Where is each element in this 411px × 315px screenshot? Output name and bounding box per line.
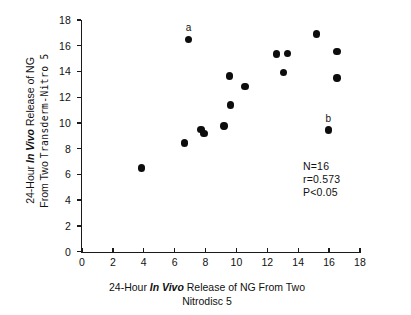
y-axis-title: 24-Hour In Vivo Release of NG From Two T… bbox=[23, 11, 52, 251]
data-point bbox=[181, 139, 188, 146]
y-tick-mark bbox=[77, 71, 81, 72]
x-tick-label: 18 bbox=[354, 256, 366, 268]
x-tick-mark bbox=[267, 248, 268, 252]
x-tick-mark bbox=[328, 248, 329, 252]
x-tick-label: 12 bbox=[261, 256, 273, 268]
y-tick-mark bbox=[77, 45, 81, 46]
x-tick-mark bbox=[359, 248, 360, 252]
y-title-emphasis: In Vivo bbox=[24, 129, 36, 163]
scatter-plot-figure: 024681012141618 024681012141618 ab N=16 … bbox=[0, 0, 411, 315]
y-title-post: Release of NG bbox=[24, 57, 36, 129]
data-point bbox=[313, 30, 320, 37]
x-axis-title-line1: 24-Hour In Vivo Release of NG From Two bbox=[62, 281, 352, 295]
y-tick-mark bbox=[77, 148, 81, 149]
data-point-label: b bbox=[326, 113, 332, 124]
y-axis-line bbox=[81, 20, 82, 253]
data-point-label: a bbox=[186, 22, 192, 33]
x-tick-mark bbox=[205, 248, 206, 252]
statistics-annotation: N=16 r=0.573 P<0.05 bbox=[303, 160, 340, 200]
data-point bbox=[226, 72, 233, 79]
y-title2-pre: From Two bbox=[38, 158, 50, 207]
stat-pvalue: P<0.05 bbox=[303, 186, 340, 199]
x-tick-label: 4 bbox=[141, 256, 147, 268]
y-tick-mark bbox=[77, 19, 81, 20]
data-point bbox=[284, 50, 291, 57]
data-point bbox=[200, 130, 207, 137]
y-tick-mark bbox=[77, 199, 81, 200]
x-title-emphasis: In Vivo bbox=[150, 281, 184, 293]
data-point bbox=[220, 122, 227, 129]
data-point bbox=[325, 126, 332, 133]
x-tick-label: 0 bbox=[79, 256, 85, 268]
x-tick-mark bbox=[112, 248, 113, 252]
y-tick-mark bbox=[77, 225, 81, 226]
x-axis-title-line2: Nitrodisc 5 bbox=[62, 295, 352, 309]
x-tick-mark bbox=[174, 248, 175, 252]
x-tick-label: 14 bbox=[292, 256, 304, 268]
x-tick-label: 8 bbox=[203, 256, 209, 268]
y-title2-mono: Transderm-Nitro 5 bbox=[39, 53, 50, 158]
x-tick-mark bbox=[236, 248, 237, 252]
y-title-pre: 24-Hour bbox=[24, 163, 36, 204]
data-point bbox=[273, 50, 280, 57]
x-tick-label: 6 bbox=[172, 256, 178, 268]
data-point bbox=[333, 48, 340, 55]
x-tick-mark bbox=[298, 248, 299, 252]
data-point bbox=[333, 74, 340, 81]
y-tick-mark bbox=[77, 174, 81, 175]
y-tick-mark bbox=[77, 122, 81, 123]
x-tick-mark bbox=[81, 248, 82, 252]
data-point bbox=[280, 69, 287, 76]
x-tick-mark bbox=[143, 248, 144, 252]
x-tick-label: 2 bbox=[110, 256, 116, 268]
x-title-pre: 24-Hour bbox=[109, 281, 150, 293]
data-point bbox=[138, 164, 145, 171]
y-axis-title-line2: From Two Transderm-Nitro 5 bbox=[37, 11, 52, 251]
data-point bbox=[227, 101, 234, 108]
y-tick-mark bbox=[77, 97, 81, 98]
stat-sample-size: N=16 bbox=[303, 160, 340, 173]
data-point bbox=[185, 36, 192, 43]
x-title-post: Release of NG From Two bbox=[184, 281, 305, 293]
stat-correlation: r=0.573 bbox=[303, 173, 340, 186]
x-tick-label: 10 bbox=[230, 256, 242, 268]
x-axis-title: 24-Hour In Vivo Release of NG From Two N… bbox=[62, 281, 352, 308]
x-axis-line bbox=[82, 252, 361, 253]
y-axis-title-line1: 24-Hour In Vivo Release of NG bbox=[23, 11, 37, 251]
x-tick-label: 16 bbox=[323, 256, 335, 268]
data-point bbox=[241, 83, 248, 90]
